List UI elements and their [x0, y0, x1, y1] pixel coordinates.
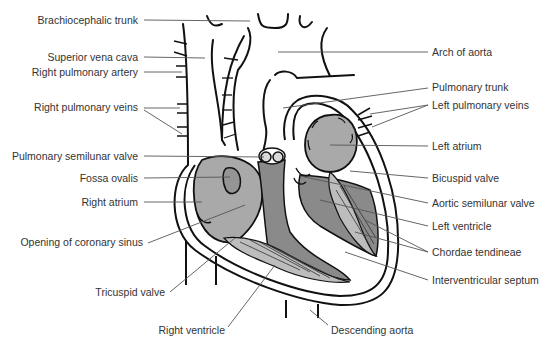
label-left-ventricle: Left ventricle [432, 220, 492, 232]
label-bicuspid-valve: Bicuspid valve [432, 172, 499, 184]
right-pulmonary-vessel-stubs [174, 41, 188, 136]
label-right-atrium: Right atrium [81, 196, 138, 208]
label-interventricular-septum: Interventricular septum [432, 274, 539, 286]
label-brachiocephalic-trunk: Brachiocephalic trunk [38, 14, 138, 26]
label-pulmonary-trunk: Pulmonary trunk [432, 81, 508, 93]
label-left-pulmonary-veins: Left pulmonary veins [432, 99, 529, 111]
fossa-ovalis [223, 168, 240, 194]
label-tricuspid-valve: Tricuspid valve [95, 286, 165, 298]
pulmonary-semilunar-valve [259, 148, 285, 164]
label-superior-vena-cava: Superior vena cava [48, 51, 138, 63]
label-arch-of-aorta: Arch of aorta [432, 46, 492, 58]
label-right-ventricle: Right ventricle [158, 324, 225, 336]
left-atrium [305, 115, 357, 172]
label-left-atrium: Left atrium [432, 140, 482, 152]
label-chordae-tendineae: Chordae tendineae [432, 246, 521, 258]
label-right-pulmonary-artery: Right pulmonary artery [32, 66, 138, 78]
label-fossa-ovalis: Fossa ovalis [80, 172, 138, 184]
label-aortic-semilunar-valve: Aortic semilunar valve [432, 197, 535, 209]
label-opening-of-coronary-sinus: Opening of coronary sinus [20, 236, 143, 248]
label-right-pulmonary-veins: Right pulmonary veins [34, 101, 138, 113]
label-pulmonary-semilunar-valve: Pulmonary semilunar valve [12, 150, 138, 162]
label-descending-aorta: Descending aorta [331, 324, 413, 336]
